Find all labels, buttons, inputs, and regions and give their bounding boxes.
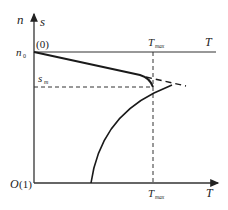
tmax-top-label: T [148,36,155,48]
tmax-top-subscript: max [155,43,165,49]
sm-subscript: m [44,79,49,85]
origin-label: O [10,177,19,191]
torque-curve-upper [34,52,153,87]
s-axis-label: s [40,14,45,29]
tmax-bottom-label: T [148,187,155,199]
t-top-label: T [205,35,213,49]
origin-suffix: (1) [19,178,32,191]
sm-label: s [38,72,42,84]
n0-label: n [16,46,22,58]
n-axis-label: n [17,12,24,27]
t-axis-label: T [206,186,214,200]
torque-curve-lower [91,85,172,183]
torque-speed-diagram: n s (0) n 0 s m T max T T max T O (1) [0,0,228,210]
tmax-bottom-subscript: max [155,194,165,200]
diagram-svg: n s (0) n 0 s m T max T T max T O (1) [0,0,228,210]
point-zero-label: (0) [36,38,49,51]
n0-subscript: 0 [23,53,26,59]
